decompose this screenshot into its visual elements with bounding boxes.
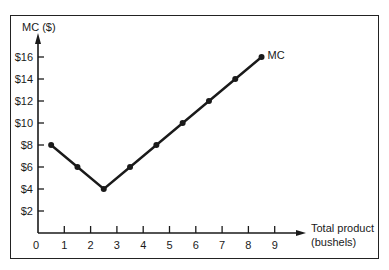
- data-point: [259, 54, 265, 60]
- x-tick-label: 6: [189, 239, 203, 251]
- x-tick-label: 4: [136, 239, 150, 251]
- data-point: [153, 142, 159, 148]
- data-point: [74, 164, 80, 170]
- mc-line: [51, 57, 262, 189]
- data-point: [180, 120, 186, 126]
- x-tick-label: 7: [215, 239, 229, 251]
- series-label-mc: MC: [268, 49, 285, 61]
- data-point: [232, 76, 238, 82]
- y-axis-arrow-icon: [35, 33, 41, 44]
- x-tick-label: 0: [29, 239, 43, 251]
- y-tick-label: $16: [5, 51, 33, 63]
- y-tick-label: $10: [5, 117, 33, 129]
- data-point: [101, 186, 107, 192]
- mc-series: [48, 54, 264, 192]
- y-tick-label: $2: [5, 205, 33, 217]
- x-tick-label: 5: [163, 239, 177, 251]
- x-axis-label-line2: (bushels): [311, 236, 356, 248]
- x-tick-label: 9: [268, 239, 282, 251]
- y-axis-label: MC ($): [22, 21, 56, 33]
- x-tick-label: 2: [84, 239, 98, 251]
- y-tick-label: $12: [5, 95, 33, 107]
- y-tick-label: $14: [5, 73, 33, 85]
- y-tick-label: $6: [5, 161, 33, 173]
- data-point: [48, 142, 54, 148]
- x-axis-label-line1: Total product: [311, 222, 374, 234]
- x-tick-label: 1: [57, 239, 71, 251]
- x-tick-label: 8: [241, 239, 255, 251]
- x-tick-label: 3: [110, 239, 124, 251]
- data-point: [206, 98, 212, 104]
- y-tick-label: $4: [5, 183, 33, 195]
- data-point: [127, 164, 133, 170]
- y-tick-label: $8: [5, 139, 33, 151]
- x-axis-arrow-icon: [296, 230, 306, 236]
